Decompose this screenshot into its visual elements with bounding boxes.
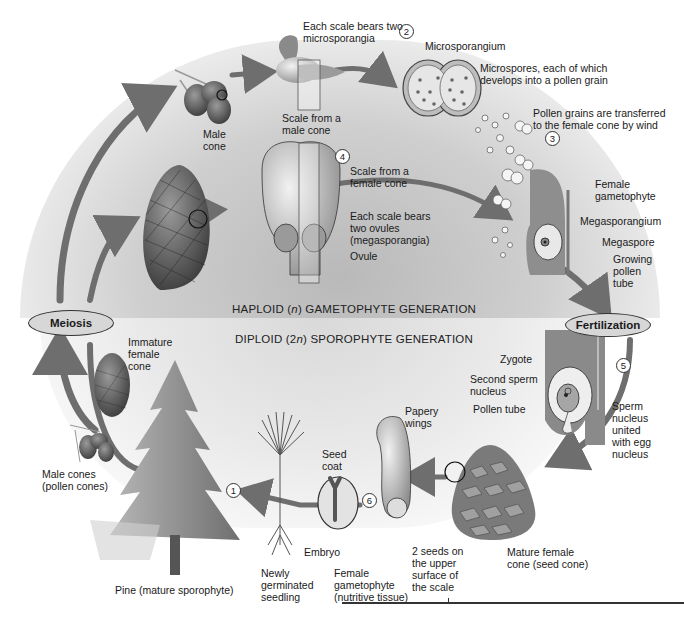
seedling-illustration — [258, 412, 304, 555]
meiosis-oval: Meiosis — [28, 310, 114, 336]
label-male-cone: Male cone — [203, 128, 226, 152]
label-seed-coat: Seed coat — [322, 448, 347, 472]
label-female-gametophyte: Female gametophyte — [595, 178, 656, 202]
label-male-cones-pollen-cones: Male cones (pollen cones) — [42, 468, 108, 492]
bottom-rule-divider — [342, 602, 684, 604]
label-newly-germinated-seedling: Newly germinated seedling — [261, 567, 314, 603]
label-scale-from-male-cone: Scale from a male cone — [282, 112, 341, 136]
male-scale-illustration — [276, 35, 345, 110]
pollen-grains — [476, 113, 534, 258]
bottom-rule-tick — [448, 598, 449, 604]
label-zygote: Zygote — [500, 353, 532, 365]
step-1-marker: 1 — [226, 483, 241, 498]
mature-female-cone-illustration — [445, 445, 535, 540]
fertilization-oval: Fertilization — [565, 313, 651, 337]
label-growing-pollen-tube: Growing pollen tube — [613, 253, 652, 289]
female-cone-illustration — [143, 165, 210, 290]
label-papery-wings: Papery wings — [405, 405, 438, 429]
microsporangium-illustration — [403, 60, 481, 116]
label-two-seeds-on-scale: 2 seeds on the upper surface of the scal… — [412, 545, 463, 593]
haploid-generation-label: HAPLOID (n) GAMETOPHYTE GENERATION — [232, 303, 476, 315]
ovule-detail-illustration — [526, 169, 568, 275]
seed-illustration — [318, 477, 358, 529]
label-megaspore: Megaspore — [602, 236, 655, 248]
step-4-marker: 4 — [335, 149, 350, 164]
label-female-gametophyte-nutritive: Female gametophyte (nutritive tissue) — [334, 567, 408, 603]
label-microspores: Microspores, each of which develops into… — [480, 62, 608, 86]
label-second-sperm-nucleus: Second sperm nucleus — [470, 373, 538, 397]
label-ovule: Ovule — [350, 250, 377, 262]
label-megasporangium: Megasporangium — [580, 215, 661, 227]
immature-female-cone-illustration — [94, 353, 130, 417]
step-5-marker: 5 — [616, 358, 631, 373]
label-pine-mature-sporophyte: Pine (mature sporophyte) — [115, 584, 233, 596]
fertilized-ovule-illustration — [545, 330, 605, 445]
label-scale-from-female-cone: Scale from a female cone — [350, 165, 409, 189]
step-3-marker: 3 — [545, 131, 560, 146]
male-cone-illustration — [175, 70, 231, 124]
label-immature-female-cone: Immature female cone — [128, 336, 172, 372]
pine-life-cycle-diagram: HAPLOID (n) GAMETOPHYTE GENERATION DIPLO… — [0, 0, 684, 625]
label-scale-bears-microsporangia: Each scale bears two microsporangia — [303, 20, 403, 44]
label-mature-female-cone: Mature female cone (seed cone) — [507, 546, 588, 570]
seed-scale-illustration — [377, 417, 411, 518]
female-scale-illustration — [262, 142, 340, 283]
label-microsporangium: Microsporangium — [425, 40, 506, 52]
step-6-marker: 6 — [362, 493, 377, 508]
diploid-generation-label: DIPLOID (2n) SPOROPHYTE GENERATION — [235, 333, 473, 345]
label-embryo: Embryo — [304, 546, 340, 558]
label-scale-bears-ovules: Each scale bears two ovules (megasporang… — [350, 210, 431, 246]
label-pollen-tube: Pollen tube — [473, 403, 526, 415]
label-pollen-transferred: Pollen grains are transferred to the fem… — [533, 107, 666, 131]
label-sperm-nucleus-united-with-egg: Sperm nucleus united with egg nucleus — [612, 400, 651, 460]
